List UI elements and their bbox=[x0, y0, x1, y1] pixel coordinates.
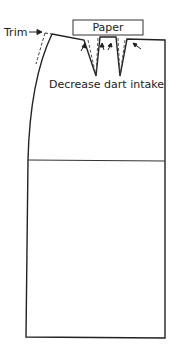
decrease-dart-label: Decrease dart intake bbox=[49, 78, 164, 91]
paper-label: Paper bbox=[92, 21, 124, 34]
trim-arrow-icon bbox=[29, 30, 42, 35]
skirt-pattern-diagram: Paper Trim Decrease dart intake bbox=[0, 0, 173, 355]
dart2-dashed-right bbox=[120, 40, 125, 76]
trim-label: Trim bbox=[3, 26, 27, 39]
hip-line bbox=[28, 160, 165, 161]
dart1-dashed-left bbox=[88, 40, 96, 76]
